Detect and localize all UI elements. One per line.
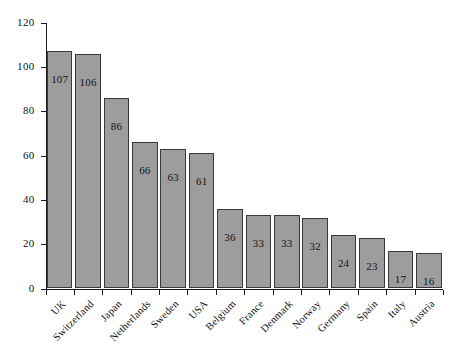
y-axis-tick-label: 0 (0, 282, 35, 294)
x-axis-tick-mark (187, 290, 188, 295)
y-axis-tick-mark (41, 244, 46, 245)
y-axis-tick-label: 80 (0, 104, 35, 116)
bar-value-label: 33 (271, 237, 303, 249)
x-axis-tick-mark (415, 290, 416, 295)
bar-value-label: 16 (413, 275, 445, 287)
x-axis-tick-mark (102, 290, 103, 295)
bar (47, 51, 73, 288)
x-axis-tick-mark (329, 290, 330, 295)
bar (246, 215, 272, 288)
y-axis-tick-mark (41, 200, 46, 201)
x-axis-tick-mark (244, 290, 245, 295)
y-axis-tick-label: 100 (0, 60, 35, 72)
x-axis-tick-mark (386, 290, 387, 295)
bar (189, 153, 215, 288)
bar-value-label: 107 (44, 73, 76, 85)
y-axis-tick-label: 60 (0, 149, 35, 161)
x-axis-tick-mark (74, 290, 75, 295)
bar (302, 218, 328, 289)
x-axis-tick-mark (301, 290, 302, 295)
x-axis-tick-mark (216, 290, 217, 295)
bar-value-label: 106 (72, 76, 104, 88)
y-axis-tick-mark (41, 23, 46, 24)
x-axis-tick-mark (273, 290, 274, 295)
x-axis-tick-mark (46, 290, 47, 295)
bar-value-label: 63 (157, 171, 189, 183)
bar-value-label: 86 (101, 120, 133, 132)
x-axis-tick-mark (159, 290, 160, 295)
bar (217, 209, 243, 289)
bar-value-label: 17 (385, 273, 417, 285)
y-axis-tick-label: 120 (0, 16, 35, 28)
bar-value-label: 33 (243, 237, 275, 249)
bar-value-label: 66 (129, 164, 161, 176)
y-axis-tick-mark (41, 67, 46, 68)
bar-chart: 020406080100120 107106866663613633333224… (0, 0, 458, 352)
bar (160, 149, 186, 289)
bar-value-label: 61 (186, 175, 218, 187)
y-axis-tick-mark (41, 156, 46, 157)
x-axis-tick-mark (443, 290, 444, 295)
bar-value-label: 36 (214, 231, 246, 243)
y-axis-tick-label: 40 (0, 193, 35, 205)
y-axis-tick-mark (41, 111, 46, 112)
x-axis-tick-mark (131, 290, 132, 295)
bar-value-label: 24 (328, 257, 360, 269)
bar-value-label: 32 (299, 240, 331, 252)
bar (75, 54, 101, 289)
x-axis-tick-mark (358, 290, 359, 295)
y-axis-tick-label: 20 (0, 237, 35, 249)
bar (274, 215, 300, 288)
bar-value-label: 23 (356, 260, 388, 272)
